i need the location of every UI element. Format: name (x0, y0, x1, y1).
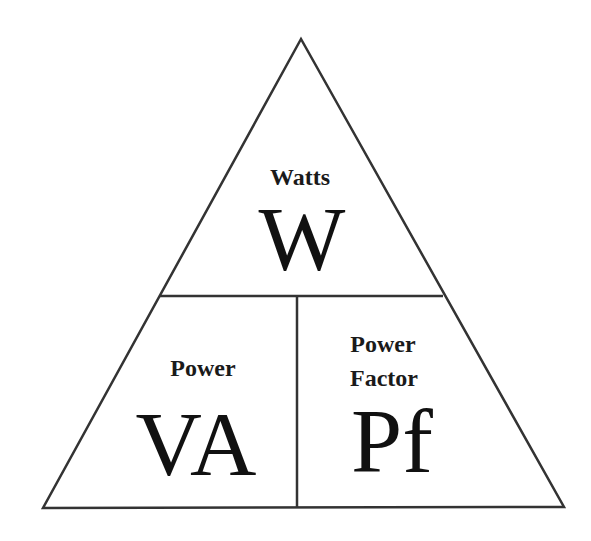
power-factor-label-line2: Factor (334, 366, 434, 390)
watts-symbol: W (240, 193, 364, 285)
watts-label: Watts (250, 165, 350, 189)
pf-symbol: Pf (335, 395, 449, 487)
power-factor-label-line1: Power (333, 332, 433, 356)
power-va-label: Power (150, 356, 256, 380)
power-triangle-diagram: Watts W Power VA Power Factor Pf (0, 0, 591, 541)
va-symbol: VA (110, 398, 282, 490)
